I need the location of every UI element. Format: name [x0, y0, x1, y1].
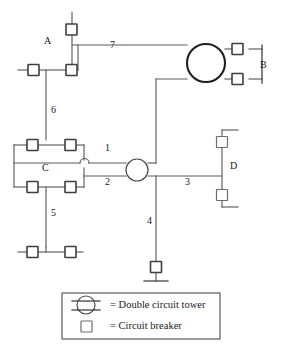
line-label-3: 3: [185, 176, 190, 187]
line-label-6: 6: [51, 104, 56, 115]
legend-text-breaker: = Circuit breaker: [110, 320, 182, 331]
bus-label-a: A: [44, 35, 51, 46]
line-label-5: 5: [51, 207, 56, 218]
power-system-diagram: A B C D 1 2 3 4 5 6 7 = Double circuit t…: [0, 0, 281, 351]
line-label-7: 7: [110, 39, 115, 50]
label-layer: A B C D 1 2 3 4 5 6 7 = Double circuit t…: [0, 0, 281, 351]
line-label-2: 2: [105, 176, 110, 187]
line-label-1: 1: [105, 142, 110, 153]
bus-label-d: D: [230, 160, 237, 171]
bus-label-c: C: [42, 162, 49, 173]
legend-text-tower: = Double circuit tower: [110, 299, 205, 310]
bus-label-b: B: [260, 59, 267, 70]
line-label-4: 4: [147, 215, 152, 226]
